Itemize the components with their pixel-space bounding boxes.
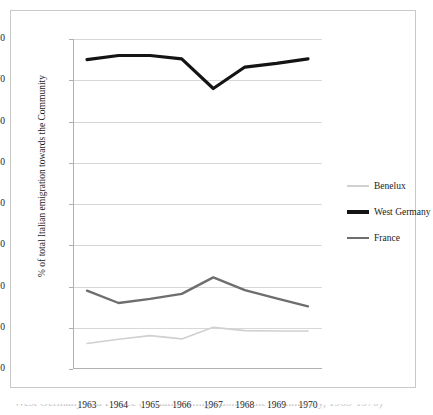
y-tick-label: 80	[0, 34, 5, 44]
series-line-benelux	[87, 327, 308, 343]
legend-swatch-icon	[347, 237, 369, 239]
y-axis-title: % of total Italian emigration towards th…	[35, 11, 49, 341]
legend-item-france[interactable]: France	[347, 225, 427, 251]
plot-area: 01020304050607080 1963196419651966196719…	[73, 39, 322, 369]
chart-legend: BeneluxWest GermanyFrance	[347, 173, 427, 251]
series-line-west-germany	[87, 56, 308, 89]
y-tick-label: 70	[0, 75, 5, 85]
legend-swatch-icon	[347, 185, 369, 187]
legend-item-west-germany[interactable]: West Germany	[347, 199, 427, 225]
y-tick-label: 0	[0, 364, 5, 374]
legend-label: France	[374, 233, 400, 243]
y-tick-label: 50	[0, 158, 5, 168]
series-lines	[73, 39, 322, 369]
legend-item-benelux[interactable]: Benelux	[347, 173, 427, 199]
y-tick-label: 60	[0, 117, 5, 127]
y-tick-label: 20	[0, 282, 5, 292]
y-tick-label: 10	[0, 323, 5, 333]
y-tick-label: 30	[0, 240, 5, 250]
y-tick-label: 40	[0, 199, 5, 209]
legend-label: West Germany	[374, 207, 430, 217]
figure-caption-clipped: West Germany and France (% Italian emigr…	[0, 404, 433, 415]
chart-frame: % of total Italian emigration towards th…	[10, 10, 416, 388]
y-tick-mark	[69, 369, 73, 370]
series-line-france	[87, 277, 308, 306]
legend-swatch-icon	[347, 210, 369, 213]
legend-label: Benelux	[374, 181, 406, 191]
